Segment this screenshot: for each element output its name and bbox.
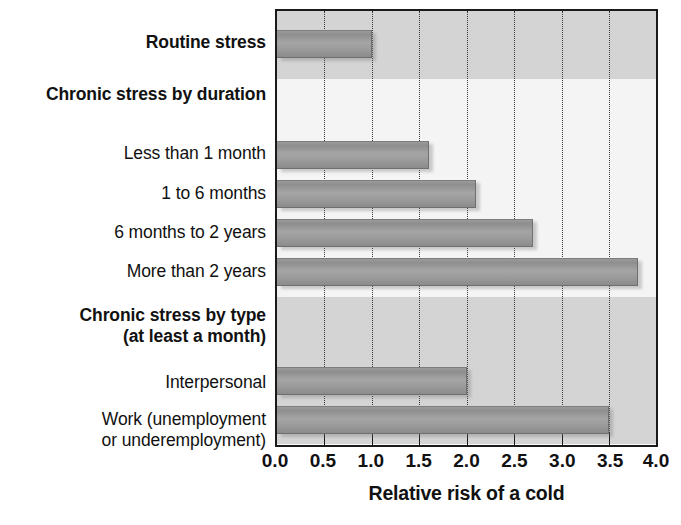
category-label-1-to-6-months: 1 to 6 months	[0, 183, 266, 204]
bar-1-to-6-months	[277, 180, 476, 208]
xtick-label-1-0: 1.0	[358, 450, 384, 472]
plot-inner	[277, 11, 656, 445]
xtick-label-1-5: 1.5	[405, 450, 431, 472]
xtick-label-0-0: 0.0	[262, 450, 288, 472]
category-label-less-than-1-month: Less than 1 month	[0, 143, 266, 164]
xtick-label-0-5: 0.5	[310, 450, 336, 472]
x-axis-tick-labels: 0.0 0.5 1.0 1.5 2.0 2.5 3.0 3.5 4.0	[275, 450, 658, 476]
bar-less-than-1-month	[277, 141, 429, 169]
bar-interpersonal	[277, 367, 467, 395]
bar-work-unemployment	[277, 406, 609, 434]
relative-risk-bar-chart: Routine stress Chronic stress by duratio…	[0, 0, 681, 525]
category-label-interpersonal: Interpersonal	[0, 372, 266, 393]
plot-area	[275, 9, 658, 447]
x-axis-label: Relative risk of a cold	[275, 482, 658, 505]
category-label-column: Routine stress Chronic stress by duratio…	[0, 9, 266, 447]
bar-6-months-to-2-years	[277, 219, 533, 247]
category-label-work-unemployment: Work (unemployment or underemployment)	[0, 409, 266, 451]
xtick-label-3-0: 3.0	[549, 450, 575, 472]
bar-routine-stress	[277, 30, 372, 58]
bar-more-than-2-years	[277, 258, 638, 286]
gridline-3-5	[609, 11, 610, 445]
xtick-label-2-0: 2.0	[453, 450, 479, 472]
xtick-label-2-5: 2.5	[501, 450, 527, 472]
category-label-routine-stress: Routine stress	[0, 32, 266, 53]
group-heading-chronic-stress-by-duration: Chronic stress by duration	[0, 84, 266, 105]
xtick-label-3-5: 3.5	[597, 450, 623, 472]
xtick-label-4-0: 4.0	[643, 450, 669, 472]
category-label-more-than-2-years: More than 2 years	[0, 261, 266, 282]
group-heading-chronic-stress-by-type: Chronic stress by type (at least a month…	[0, 305, 266, 347]
gridline-3-0	[562, 11, 563, 445]
category-label-6-months-to-2-years: 6 months to 2 years	[0, 222, 266, 243]
